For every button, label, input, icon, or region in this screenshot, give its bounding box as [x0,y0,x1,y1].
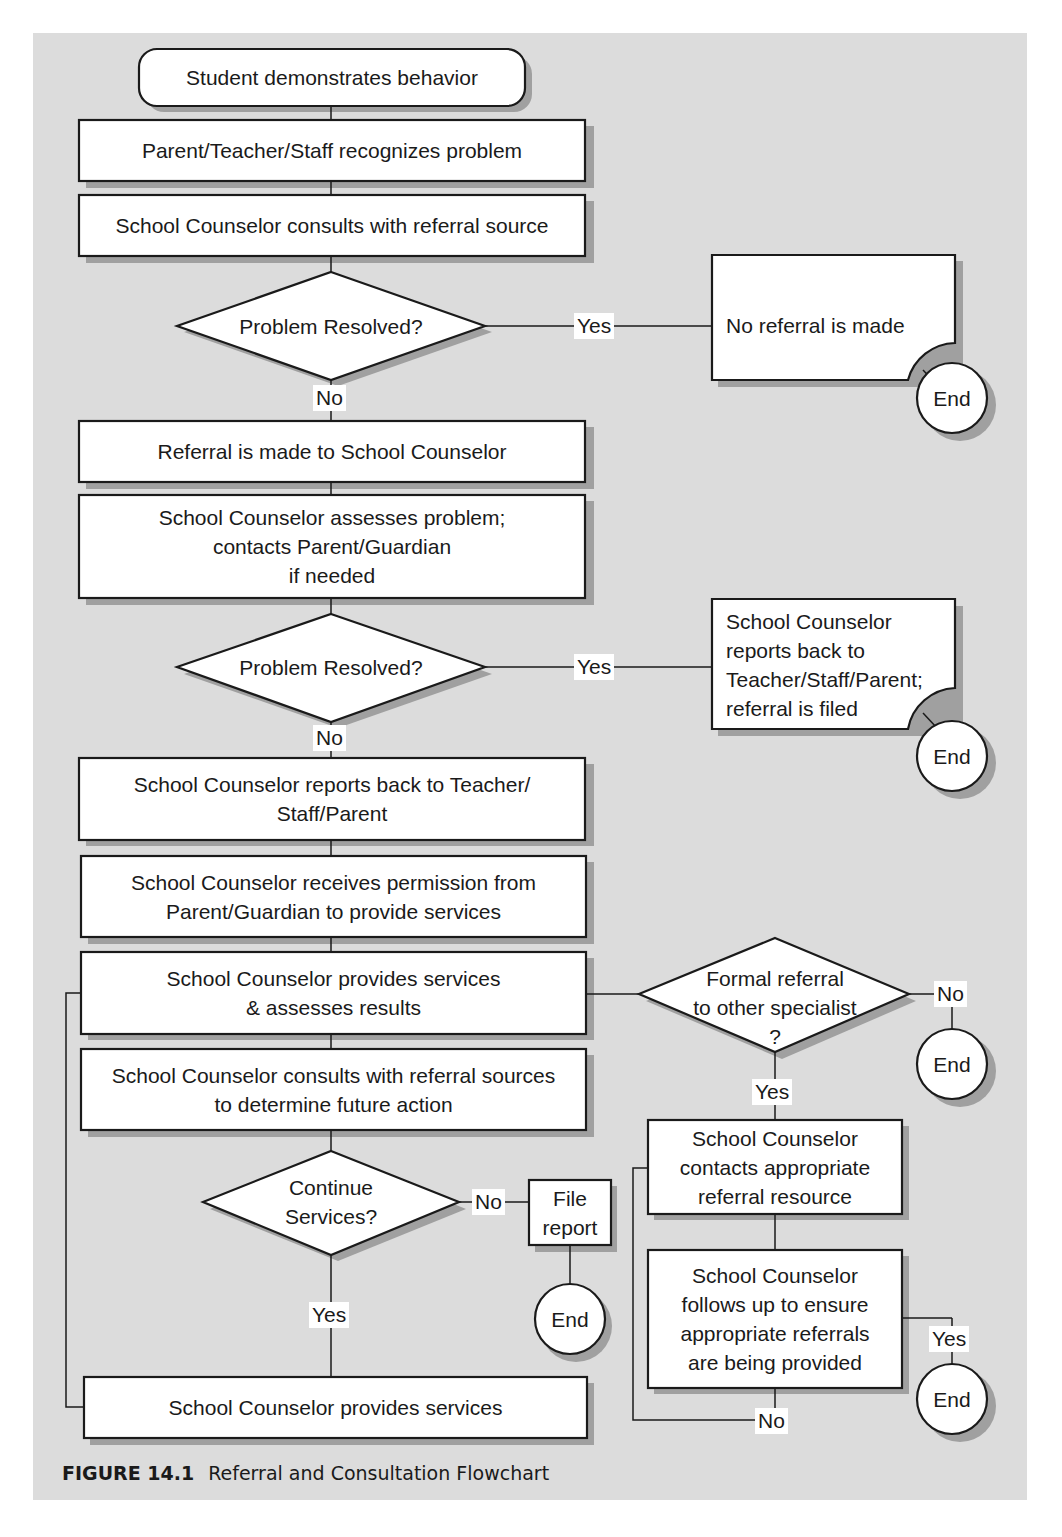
assess-problem-box: School Counselor assesses problem; conta… [79,495,585,598]
edge-label-no-followup: No [755,1408,788,1434]
decision-problem-resolved-2: Problem Resolved? [177,647,485,687]
contacts-resource-box: School Counselor contacts appropriate re… [648,1120,902,1214]
end-terminal-1: End [917,378,987,418]
referral-made-box: Referral is made to School Counselor [79,421,585,482]
edge-label-no-continue: No [472,1189,505,1215]
follow-up-box: School Counselor follows up to ensure ap… [648,1250,902,1388]
edge-label-yes-2: Yes [574,654,614,680]
edge-label-no-2: No [313,725,346,751]
permission-box: School Counselor receives permission fro… [81,856,586,937]
edge-label-yes-1: Yes [574,313,614,339]
consult-referral-source-box: School Counselor consults with referral … [79,195,585,256]
no-referral-box: No referral is made [712,300,956,350]
end-terminal-5: End [917,1379,987,1419]
end-terminal-3: End [917,1044,987,1084]
report-back-box: School Counselor reports back to Teacher… [79,758,585,840]
figure-label: FIGURE 14.1 [62,1462,194,1484]
consult-sources-box: School Counselor consults with referral … [81,1049,586,1130]
file-report-box: File report [529,1180,611,1245]
provide-assess-box: School Counselor provides services & ass… [81,952,586,1034]
report-filed-box: School Counselor reports back to Teacher… [712,607,966,723]
end-terminal-2: End [917,736,987,776]
figure-caption: FIGURE 14.1Referral and Consultation Flo… [62,1462,549,1484]
edge-label-yes-continue: Yes [309,1302,349,1328]
end-terminal-4: End [535,1299,605,1339]
decision-formal-referral: Formal referral to other specialist ? [660,960,890,1054]
edge-label-yes-followup: Yes [929,1326,969,1352]
edge-label-yes-formal: Yes [752,1079,792,1105]
provide-services-box: School Counselor provides services [84,1377,587,1438]
figure-title: Referral and Consultation Flowchart [208,1462,549,1484]
recognize-problem-box: Parent/Teacher/Staff recognizes problem [79,120,585,181]
decision-continue-services: Continue Services? [233,1172,429,1232]
edge-label-no-formal: No [934,981,967,1007]
edge-label-no-1: No [313,385,346,411]
start-node: Student demonstrates behavior [139,49,525,106]
decision-problem-resolved-1: Problem Resolved? [177,306,485,346]
